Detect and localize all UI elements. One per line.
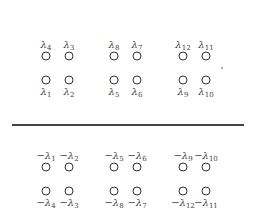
label-subscript: 9	[184, 91, 188, 99]
eigenvalue-label: λ12	[175, 40, 190, 52]
eigenvalue-label: −λ10	[194, 151, 218, 163]
eigenvalue-label: −λ1	[36, 151, 55, 163]
eigenvalue-label: λ10	[198, 87, 213, 99]
label-subscript: 7	[142, 202, 146, 210]
eigenvalue-circle-icon	[179, 52, 188, 61]
eigenvalue-label: −λ3	[59, 198, 78, 210]
eigenvalue-circle-icon	[42, 76, 51, 85]
eigenvalue-circle-icon	[42, 52, 51, 61]
eigenvalue-label: λ6	[132, 87, 143, 99]
eigenvalue-label: λ4	[41, 40, 52, 52]
eigenvalue-label: −λ12	[171, 198, 195, 210]
eigenvalue-circle-icon	[110, 52, 119, 61]
label-base: −λ	[194, 197, 209, 208]
eigenvalue-circle-icon	[179, 76, 188, 85]
eigenvalue-circle-icon	[65, 163, 74, 172]
eigenvalue-label: −λ8	[104, 198, 123, 210]
eigenvalue-label: −λ9	[173, 151, 192, 163]
eigenvalue-label: λ5	[109, 87, 120, 99]
boundary-hatching	[12, 125, 244, 132]
eigenvalue-circle-icon	[202, 52, 211, 61]
label-subscript: 4	[51, 202, 55, 210]
label-subscript: 2	[70, 91, 74, 99]
eigenvalue-circle-icon	[179, 187, 188, 196]
label-base: −λ	[127, 150, 142, 161]
eigenvalue-circle-icon	[65, 76, 74, 85]
stray-mark	[221, 67, 223, 69]
eigenvalue-label: λ3	[64, 40, 75, 52]
eigenvalue-label: −λ7	[127, 198, 146, 210]
label-base: −λ	[173, 150, 188, 161]
label-subscript: 9	[188, 155, 192, 163]
label-base: −λ	[194, 150, 209, 161]
label-base: −λ	[104, 150, 119, 161]
label-base: −λ	[36, 150, 51, 161]
eigenvalue-label: λ7	[132, 40, 143, 52]
eigenvalue-circle-icon	[202, 187, 211, 196]
label-subscript: 11	[209, 202, 218, 210]
eigenvalue-circle-icon	[133, 163, 142, 172]
label-base: −λ	[59, 197, 74, 208]
label-subscript: 1	[51, 155, 55, 163]
label-subscript: 6	[138, 91, 142, 99]
label-subscript: 10	[205, 91, 214, 99]
label-base: −λ	[171, 197, 186, 208]
eigenvalue-circle-icon	[133, 52, 142, 61]
label-base: −λ	[127, 197, 142, 208]
label-subscript: 10	[209, 155, 218, 163]
label-subscript: 5	[115, 91, 119, 99]
eigenvalue-circle-icon	[42, 163, 51, 172]
eigenvalue-label: −λ4	[36, 198, 55, 210]
eigenvalue-label: −λ5	[104, 151, 123, 163]
label-subscript: 3	[74, 202, 78, 210]
eigenvalue-circle-icon	[65, 187, 74, 196]
label-base: −λ	[36, 197, 51, 208]
eigenvalue-circle-icon	[110, 76, 119, 85]
label-subscript: 1	[47, 91, 51, 99]
eigenvalue-circle-icon	[110, 187, 119, 196]
eigenvalue-label: λ11	[198, 40, 213, 52]
label-subscript: 2	[74, 155, 78, 163]
label-subscript: 6	[142, 155, 146, 163]
eigenvalue-label: λ9	[178, 87, 189, 99]
eigenvalue-label: λ1	[41, 87, 52, 99]
eigenvalue-label: −λ2	[59, 151, 78, 163]
eigenvalue-label: −λ11	[194, 198, 218, 210]
label-base: −λ	[59, 150, 74, 161]
eigenvalue-circle-icon	[42, 187, 51, 196]
eigenvalue-label: λ2	[64, 87, 75, 99]
eigenvalue-circle-icon	[133, 187, 142, 196]
eigenvalue-circle-icon	[202, 76, 211, 85]
label-subscript: 5	[119, 155, 123, 163]
eigenvalue-circle-icon	[202, 163, 211, 172]
eigenvalue-label: λ8	[109, 40, 120, 52]
label-subscript: 8	[119, 202, 123, 210]
eigenvalue-circle-icon	[65, 52, 74, 61]
label-base: −λ	[104, 197, 119, 208]
eigenvalue-label: −λ6	[127, 151, 146, 163]
eigenvalue-mirror-diagram: λ4λ3λ1λ2λ8λ7λ5λ6λ12λ11λ9λ10−λ1−λ2−λ4−λ3−…	[0, 0, 259, 224]
eigenvalue-circle-icon	[179, 163, 188, 172]
eigenvalue-circle-icon	[133, 76, 142, 85]
eigenvalue-circle-icon	[110, 163, 119, 172]
